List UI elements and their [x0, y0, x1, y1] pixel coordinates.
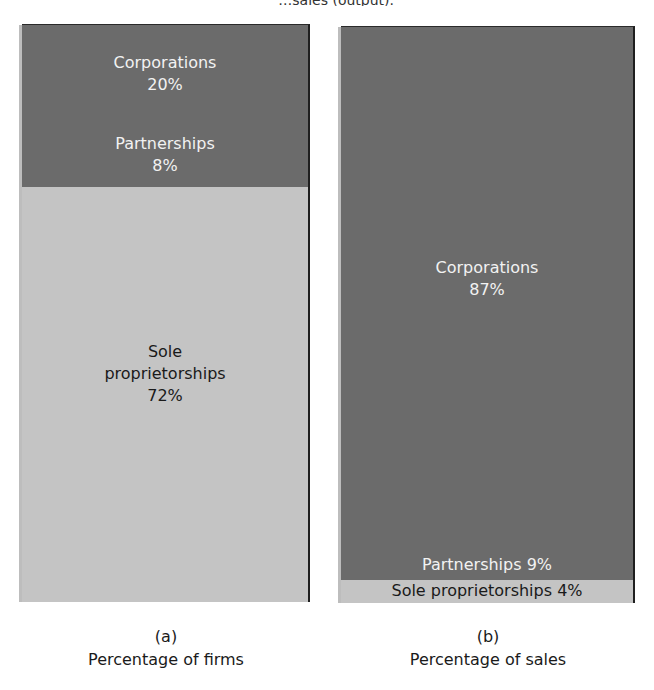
segment-sole-proprietorships-sales: Sole proprietorships 4% — [341, 580, 633, 603]
label-corporations-firms: Corporations 20% — [22, 52, 308, 96]
segment-sole-proprietorships-firms: Sole proprietorships 72% — [22, 187, 308, 602]
segment-corporations-and-partnerships-firms: Corporations 20% Partnerships 8% — [22, 25, 308, 187]
panel-a-title: Percentage of firms — [22, 648, 310, 671]
panel-b-title: Percentage of sales — [341, 648, 635, 671]
segment-corporations-and-partnerships-sales: Corporations 87% Partnerships 9% — [341, 27, 633, 580]
label-corporations-sales: Corporations 87% — [341, 257, 633, 301]
bar-percentage-of-sales: Corporations 87% Partnerships 9% Sole pr… — [341, 26, 635, 603]
label-sole-proprietorships-sales: Sole proprietorships 4% — [341, 580, 633, 602]
cut-off-caption-text: …sales (output). — [0, 0, 654, 6]
label-partnerships-firms: Partnerships 8% — [22, 133, 308, 177]
caption-panel-b: (b) Percentage of sales — [341, 625, 635, 671]
caption-panel-a: (a) Percentage of firms — [22, 625, 310, 671]
panel-a-letter: (a) — [22, 625, 310, 648]
bar-percentage-of-firms: Corporations 20% Partnerships 8% Sole pr… — [22, 24, 310, 602]
panel-b-letter: (b) — [341, 625, 635, 648]
label-sole-proprietorships-firms: Sole proprietorships 72% — [22, 341, 308, 407]
label-partnerships-sales: Partnerships 9% — [341, 554, 633, 576]
